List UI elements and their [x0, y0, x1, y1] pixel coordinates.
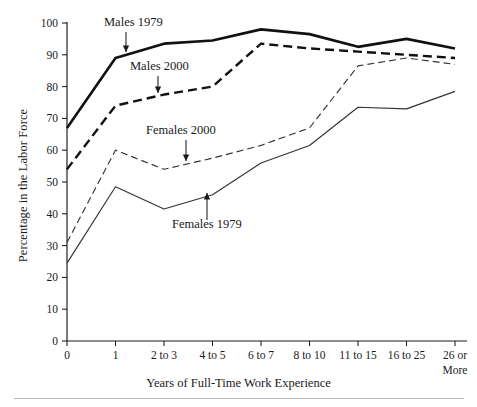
x-tick-label: 16 to 25: [388, 349, 426, 361]
chart-figure: 0102030405060708090100 012 to 34 to 56 t…: [0, 0, 477, 407]
x-tick-label: 2 to 3: [151, 349, 177, 361]
series-line-males-2000: [67, 44, 455, 170]
x-tick-label: 8 to 10: [294, 349, 326, 361]
x-tick-label: 1: [113, 349, 119, 361]
annotation-label-males-1979: Males 1979: [104, 15, 163, 29]
y-tick-label: 70: [47, 112, 59, 124]
y-tick-label: 50: [47, 176, 59, 188]
x-tick-label: 6 to 7: [248, 349, 274, 361]
y-tick-label: 0: [52, 335, 58, 347]
series-annotation-group: Males 1979Males 2000Females 2000Females …: [104, 15, 242, 231]
annotation-label-males-2000: Males 2000: [130, 59, 189, 73]
series-line-females-1979: [67, 91, 455, 263]
annotation-arrow-head: [155, 87, 161, 94]
page-divider-rule: [14, 398, 464, 399]
y-axis-tick-group: 0102030405060708090100: [41, 17, 67, 347]
annotation-arrow-head: [123, 46, 129, 53]
series-line-females-2000: [67, 58, 455, 242]
x-axis-label: Years of Full-Time Work Experience: [0, 376, 477, 391]
y-tick-label: 20: [47, 271, 59, 283]
y-tick-label: 30: [47, 240, 59, 252]
x-tick-label: 0: [64, 349, 70, 361]
y-tick-label: 10: [47, 303, 59, 315]
y-tick-label: 100: [41, 17, 59, 29]
y-axis-label: Percentage in the Labor Force: [16, 81, 31, 291]
axis-lines: [67, 22, 467, 341]
x-tick-label: 4 to 5: [199, 349, 225, 361]
x-tick-label: 11 to 15: [339, 349, 377, 361]
y-tick-label: 90: [47, 49, 59, 61]
annotation-arrow-head: [183, 155, 189, 162]
data-series-group: [67, 29, 455, 263]
y-tick-label: 80: [47, 81, 59, 93]
x-tick-label: 26 orMore: [443, 349, 468, 376]
y-tick-label: 40: [47, 208, 59, 220]
x-axis-tick-group: 012 to 34 to 56 to 78 to 1011 to 1516 to…: [64, 341, 467, 376]
annotation-label-females-2000: Females 2000: [146, 123, 216, 137]
line-chart-plot: 0102030405060708090100 012 to 34 to 56 t…: [0, 0, 477, 407]
y-tick-label: 60: [47, 144, 59, 156]
